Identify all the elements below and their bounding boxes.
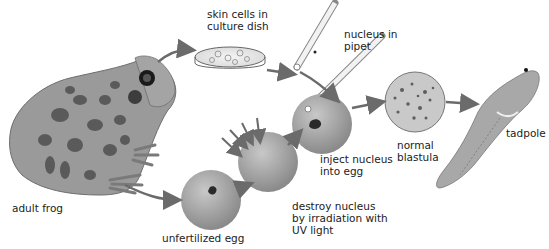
label-skin-cells: skin cells in culture dish <box>207 8 269 32</box>
adult-frog-illustration <box>10 56 176 195</box>
label-nucleus-in-pipet: nucleus in pipet <box>344 28 398 52</box>
label-tadpole: tadpole <box>506 127 546 139</box>
normal-blastula <box>385 72 445 132</box>
pipet-upper <box>294 3 335 70</box>
label-inject-nucleus: inject nucleus into egg <box>320 153 393 177</box>
irradiated-egg <box>238 132 298 192</box>
nuclear-transplant-diagram: adult frog skin cells in culture dish nu… <box>0 0 549 249</box>
unfertilized-egg <box>181 170 241 230</box>
label-destroy-nucleus: destroy nucleus by irradiation with UV l… <box>292 200 388 236</box>
label-adult-frog: adult frog <box>12 202 63 214</box>
label-unfertilized-egg: unfertilized egg <box>162 232 244 244</box>
label-normal-blastula: normal blastula <box>397 139 439 163</box>
culture-dish <box>195 47 265 68</box>
